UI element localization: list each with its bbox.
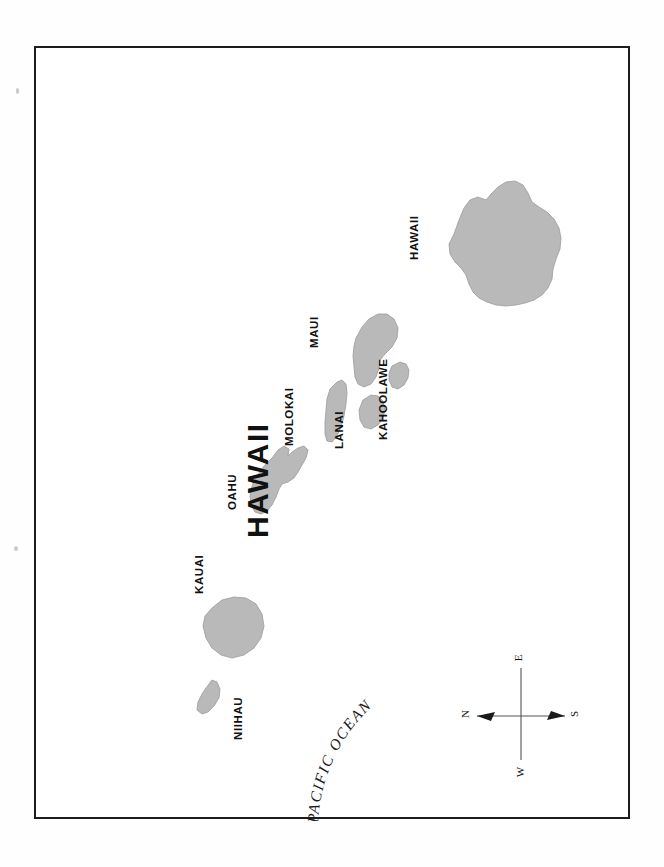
island-label-oahu: OAHU <box>226 474 238 510</box>
scanned-page: NIIHAU KAUAI OAHU MOLOKAI LANAI MAUI KAH… <box>0 0 664 867</box>
island-label-kahoolawe: KAHOOLAWE <box>377 359 389 440</box>
island-kauai <box>203 597 264 658</box>
island-kahoolawe <box>389 362 409 389</box>
map-neatline-border: NIIHAU KAUAI OAHU MOLOKAI LANAI MAUI KAH… <box>34 46 630 819</box>
compass-label-east: E <box>512 655 524 662</box>
island-niihau <box>197 680 220 714</box>
map-canvas: NIIHAU KAUAI OAHU MOLOKAI LANAI MAUI KAH… <box>36 48 632 821</box>
compass-label-west: W <box>514 767 526 777</box>
island-label-maui: MAUI <box>308 316 320 348</box>
scan-speck <box>14 546 18 551</box>
island-hawaii-big-island <box>449 181 561 306</box>
island-label-molokai: MOLOKAI <box>283 388 295 447</box>
compass-rose: N E S W <box>451 640 591 780</box>
scan-speck <box>16 88 19 94</box>
island-label-niihau: NIIHAU <box>232 697 244 740</box>
island-label-lanai: LANAI <box>333 411 345 449</box>
island-label-kauai: KAUAI <box>193 555 205 594</box>
compass-north-arrowhead <box>477 712 495 721</box>
island-label-hawaii-big-island: HAWAII <box>408 216 420 261</box>
compass-label-south: S <box>568 711 580 717</box>
map-title: HAWAII <box>241 422 275 538</box>
compass-label-north: N <box>459 710 471 718</box>
compass-south-arrowhead <box>547 711 565 720</box>
